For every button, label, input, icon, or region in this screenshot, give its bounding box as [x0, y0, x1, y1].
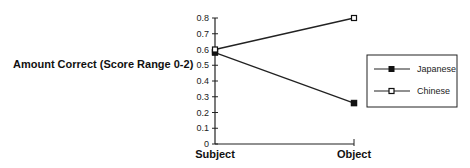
y-tick-label: 0.6: [196, 45, 209, 55]
x-category-object: Object: [337, 148, 372, 160]
line-chart: 00.10.20.30.40.50.60.70.8 Subject Object…: [0, 0, 470, 168]
series-line-japanese: [215, 53, 354, 103]
y-tick-label: 0.7: [196, 29, 209, 39]
legend-label-chinese: Chinese: [417, 86, 450, 96]
legend: Japanese Chinese: [367, 55, 457, 107]
y-tick-label: 0.3: [196, 92, 209, 102]
series-group: [212, 16, 357, 107]
y-tick-label: 0.8: [196, 13, 209, 23]
legend-filled-square-icon: [389, 66, 395, 72]
series-line-chinese: [215, 18, 354, 50]
open-square-marker-icon: [213, 47, 218, 52]
y-tick-label: 0.2: [196, 108, 209, 118]
y-tick-label: 0.5: [196, 60, 209, 70]
y-tick-label: 0.1: [196, 123, 209, 133]
y-ticks: 00.10.20.30.40.50.60.70.8: [196, 13, 218, 149]
open-square-marker-icon: [352, 16, 357, 21]
legend-open-square-icon: [389, 89, 394, 94]
x-category-subject: Subject: [195, 148, 235, 160]
filled-square-marker-icon: [351, 100, 357, 106]
y-tick-label: 0.4: [196, 76, 209, 86]
legend-label-japanese: Japanese: [417, 64, 456, 74]
